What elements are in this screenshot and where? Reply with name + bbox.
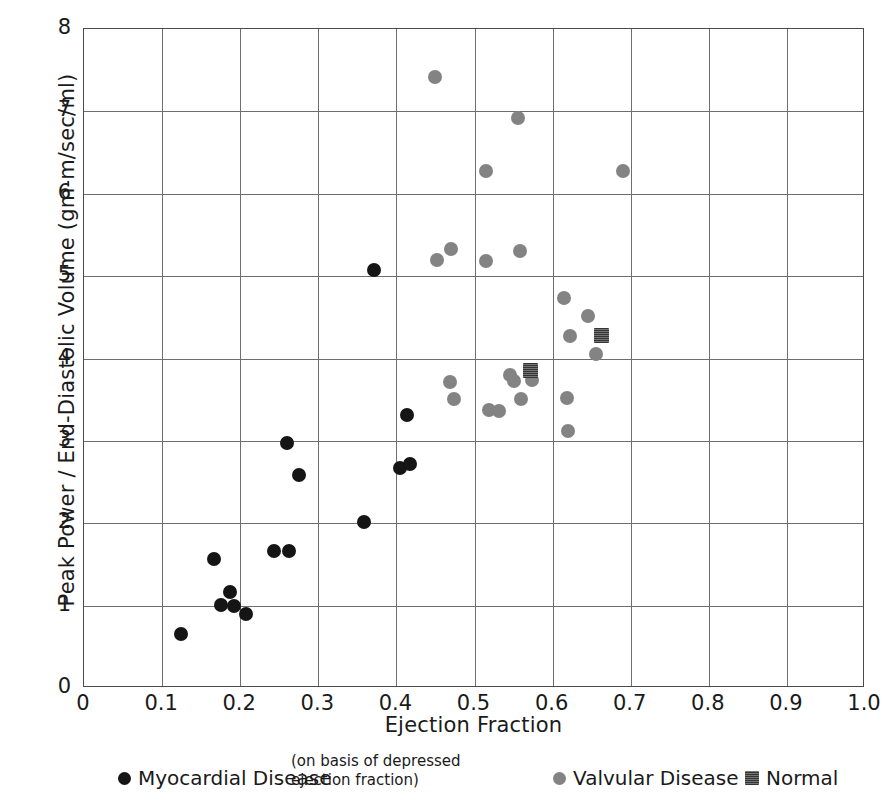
data-point-val [557, 291, 571, 305]
gridline-vertical [709, 29, 710, 686]
data-point-val [511, 111, 525, 125]
y-tick-label: 7 [11, 99, 71, 120]
y-tick-label: 1 [11, 594, 71, 615]
data-point-val [560, 391, 574, 405]
data-point-val [479, 164, 493, 178]
gridline-horizontal [84, 111, 863, 112]
y-tick-label: 5 [11, 264, 71, 285]
x-tick-label: 1.0 [824, 693, 896, 714]
gridline-vertical [162, 29, 163, 686]
data-point-val [616, 164, 630, 178]
data-point-myo [282, 544, 296, 558]
x-tick-label: 0.9 [746, 693, 826, 714]
gridline-horizontal [84, 606, 863, 607]
x-axis-title: Ejection Fraction [83, 713, 864, 737]
gridline-vertical [631, 29, 632, 686]
data-point-norm [523, 363, 538, 378]
y-tick-label: 3 [11, 429, 71, 450]
gridline-vertical [553, 29, 554, 686]
data-point-val [561, 424, 575, 438]
data-point-val [447, 392, 461, 406]
y-tick-label: 2 [11, 511, 71, 532]
data-point-val [589, 347, 603, 361]
data-point-myo [280, 436, 294, 450]
gridline-vertical [240, 29, 241, 686]
gridline-vertical [318, 29, 319, 686]
data-point-val [428, 70, 442, 84]
data-point-norm [594, 328, 609, 343]
data-point-val [443, 375, 457, 389]
data-point-myo [357, 515, 371, 529]
x-tick-label: 0.8 [668, 693, 748, 714]
data-point-val [563, 329, 577, 343]
data-point-val [581, 309, 595, 323]
legend-marker-val-icon [553, 772, 566, 785]
legend-note: (on basis of depressed ejection fraction… [291, 752, 461, 790]
legend-item-norm[interactable]: Normal [745, 766, 838, 790]
x-tick-label: 0.4 [355, 693, 435, 714]
data-point-val [479, 254, 493, 268]
gridline-horizontal [84, 441, 863, 442]
x-tick-label: 0.5 [434, 693, 514, 714]
plot-area [83, 28, 864, 687]
data-point-val [492, 404, 506, 418]
data-point-val [430, 253, 444, 267]
data-point-val [507, 374, 521, 388]
data-point-myo [207, 552, 221, 566]
gridline-horizontal [84, 194, 863, 195]
legend-marker-norm-icon [745, 771, 759, 785]
scatter-chart-figure: Peak Power / End-Diastolic Volume (gm-m/… [0, 0, 896, 804]
y-tick-label: 4 [11, 347, 71, 368]
y-tick-label: 8 [11, 17, 71, 38]
gridline-vertical [475, 29, 476, 686]
legend-label: Valvular Disease [573, 766, 739, 790]
x-tick-label: 0.2 [199, 693, 279, 714]
gridline-horizontal [84, 523, 863, 524]
data-point-val [513, 244, 527, 258]
data-point-myo [267, 544, 281, 558]
data-point-val [514, 392, 528, 406]
y-tick-label: 6 [11, 182, 71, 203]
data-point-myo [367, 263, 381, 277]
data-point-val [444, 242, 458, 256]
gridline-horizontal [84, 276, 863, 277]
gridline-vertical [396, 29, 397, 686]
data-point-myo [400, 408, 414, 422]
legend-marker-myo-icon [118, 772, 131, 785]
data-point-myo [223, 585, 237, 599]
x-tick-label: 0.7 [590, 693, 670, 714]
data-point-myo [403, 457, 417, 471]
gridline-horizontal [84, 359, 863, 360]
data-point-myo [214, 598, 228, 612]
x-tick-label: 0.6 [512, 693, 592, 714]
legend-item-val[interactable]: Valvular Disease [553, 766, 739, 790]
data-point-myo [239, 607, 253, 621]
x-tick-label: 0.1 [121, 693, 201, 714]
x-tick-label: 0.3 [277, 693, 357, 714]
data-point-myo [292, 468, 306, 482]
x-tick-label: 0 [43, 693, 123, 714]
gridline-vertical [787, 29, 788, 686]
legend-label: Normal [766, 766, 838, 790]
data-point-myo [174, 627, 188, 641]
